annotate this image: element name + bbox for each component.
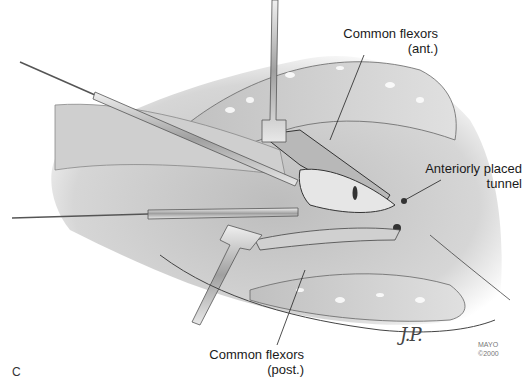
credit-line: ©2000 [478,349,499,358]
illustration-drawing [0,0,529,384]
bone-hole [353,186,358,200]
label-anteriorly-placed-tunnel: Anteriorly placed tunnel [414,161,522,191]
label-line: Anteriorly placed [414,161,522,176]
label-line: Common flexors [338,26,438,41]
surgical-illustration: Common flexors (ant.) Anteriorly placed … [0,0,529,384]
upper-needle-wire [20,62,95,95]
label-line: tunnel [414,176,522,191]
label-line: (post.) [200,362,304,377]
credit-line: MAYO [478,340,499,349]
label-line: Common flexors [200,347,304,362]
label-common-flexors-ant: Common flexors (ant.) [338,26,438,56]
panel-letter: C [12,365,21,379]
label-line: (ant.) [338,41,438,56]
copyright-credit: MAYO ©2000 [478,340,499,358]
tunnel-hole-2 [401,198,407,204]
artist-signature: J.P. [400,324,422,345]
label-common-flexors-post: Common flexors (post.) [200,347,304,377]
